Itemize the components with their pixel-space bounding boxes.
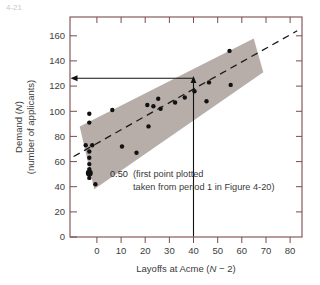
annotation-group: 0.50 (first point plotted taken from per… <box>110 169 274 192</box>
annotation-value: 0.50 <box>110 169 128 179</box>
y-tick-labels: 0 20 40 60 80 100 120 140 160 <box>49 30 65 242</box>
y-axis-title-pre: Demand ( <box>13 110 24 153</box>
highlighted-first-point <box>86 169 93 176</box>
svg-text:Demand (N): Demand (N) <box>13 101 24 153</box>
data-point <box>227 49 231 53</box>
y-axis-title: Demand (N) (number of applicants) <box>13 80 36 175</box>
x-axis-title: Layoffs at Acme (N − 2) <box>136 263 235 274</box>
x-tick-labels: 0 10 20 30 40 50 60 70 80 <box>94 245 295 256</box>
data-point <box>173 100 177 104</box>
x-tick-label: 0 <box>94 245 99 256</box>
data-point <box>87 149 91 153</box>
x-tick-label: 30 <box>164 245 175 256</box>
data-point <box>87 162 91 166</box>
data-point <box>156 97 160 101</box>
data-point <box>110 108 114 112</box>
figure-root: 4-21 <box>0 0 320 285</box>
y-tick-label: 120 <box>49 80 65 91</box>
data-point <box>183 95 187 99</box>
y-axis-title-post: ) <box>13 101 24 104</box>
data-point <box>207 80 211 84</box>
arrowhead-left <box>71 75 78 81</box>
x-axis-title-post: − 2) <box>216 263 235 274</box>
data-point <box>120 144 124 148</box>
data-point <box>90 143 94 147</box>
annotation-line-1: (first point plotted <box>133 169 203 179</box>
y-tick-label: 0 <box>60 231 65 242</box>
data-point <box>204 99 208 103</box>
x-axis-title-pre: Layoffs at Acme ( <box>136 263 210 274</box>
y-axis-subtitle: (number of applicants) <box>25 80 36 175</box>
data-point <box>87 112 91 116</box>
y-tick-label: 20 <box>54 206 65 217</box>
data-point <box>87 156 91 160</box>
data-point <box>158 107 162 111</box>
right-tick-marks <box>296 36 302 212</box>
scatter-chart: 4-21 <box>0 0 320 285</box>
data-point <box>146 124 150 128</box>
y-tick-marks <box>70 36 77 237</box>
top-tick-marks <box>97 17 290 23</box>
corner-mark: 4-21 <box>6 3 23 12</box>
x-tick-label: 40 <box>188 245 199 256</box>
x-tick-label: 20 <box>140 245 151 256</box>
annotation-line-2: taken from period 1 in Figure 4-20) <box>133 182 274 192</box>
x-tick-label: 60 <box>237 245 248 256</box>
data-point <box>145 103 149 107</box>
data-point <box>229 83 233 87</box>
svg-text:Layoffs at Acme (N − 2): Layoffs at Acme (N − 2) <box>136 263 235 274</box>
x-tick-label: 80 <box>285 245 296 256</box>
data-point <box>151 104 155 108</box>
data-point <box>87 120 91 124</box>
y-tick-label: 40 <box>54 181 65 192</box>
data-point <box>84 143 88 147</box>
data-point <box>93 182 97 186</box>
y-tick-label: 160 <box>49 30 65 41</box>
y-tick-label: 80 <box>54 131 65 142</box>
x-tick-label: 70 <box>261 245 272 256</box>
confidence-band <box>80 38 264 189</box>
y-tick-label: 140 <box>49 55 65 66</box>
x-tick-marks <box>97 237 290 243</box>
x-tick-label: 10 <box>116 245 127 256</box>
data-point <box>134 151 138 155</box>
y-tick-label: 60 <box>54 156 65 167</box>
plot-content <box>71 31 298 237</box>
y-tick-label: 100 <box>49 106 65 117</box>
data-point <box>192 89 196 93</box>
x-tick-label: 50 <box>212 245 223 256</box>
